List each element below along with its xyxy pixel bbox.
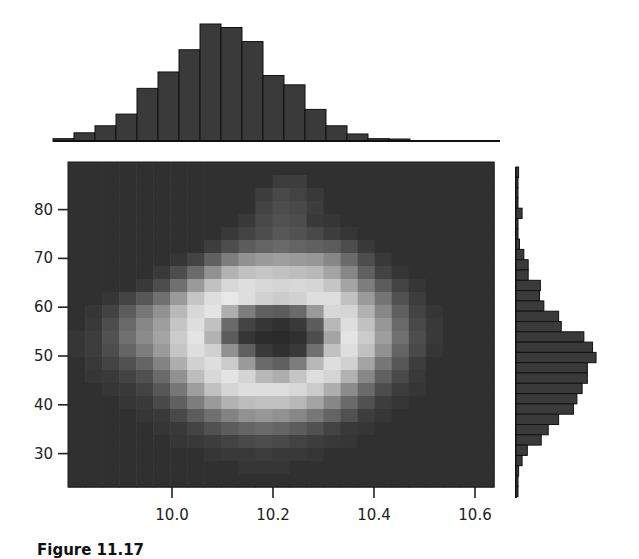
heatmap-cell bbox=[272, 370, 290, 384]
heatmap-cell bbox=[375, 201, 393, 215]
heatmap-cell bbox=[221, 266, 239, 280]
heatmap-cell bbox=[324, 448, 342, 462]
heatmap-cell bbox=[221, 383, 239, 397]
heatmap-cell bbox=[409, 318, 427, 332]
heatmap-cell bbox=[221, 188, 239, 202]
heatmap-cell bbox=[102, 227, 120, 241]
heatmap-cell bbox=[358, 318, 376, 332]
heatmap-cell bbox=[409, 396, 427, 410]
heatmap-cell bbox=[375, 253, 393, 267]
heatmap-cell bbox=[290, 383, 308, 397]
heatmap-cell bbox=[187, 305, 205, 319]
heatmap-cell bbox=[187, 318, 205, 332]
heatmap-cell bbox=[341, 357, 359, 371]
heatmap-cell bbox=[136, 331, 154, 345]
heatmap-cell bbox=[170, 422, 188, 436]
heatmap-cell bbox=[272, 435, 290, 449]
heatmap-cell bbox=[68, 175, 86, 189]
heatmap-cell bbox=[153, 188, 171, 202]
heatmap-cell bbox=[358, 292, 376, 306]
heatmap-cell bbox=[324, 201, 342, 215]
heatmap-cell bbox=[221, 227, 239, 241]
heatmap-cell bbox=[375, 461, 393, 475]
heatmap-cell bbox=[221, 214, 239, 228]
heatmap-cell bbox=[102, 383, 120, 397]
heatmap-cell bbox=[290, 253, 308, 267]
heatmap-cell bbox=[477, 396, 495, 410]
heatmap-cell bbox=[187, 162, 205, 176]
heatmap-cell bbox=[443, 227, 461, 241]
heatmap-cell bbox=[153, 318, 171, 332]
heatmap-cell bbox=[358, 227, 376, 241]
heatmap-cell bbox=[358, 214, 376, 228]
y-tick-label: 30 bbox=[34, 445, 53, 463]
heatmap-cell bbox=[392, 162, 410, 176]
heatmap-cell bbox=[102, 292, 120, 306]
heatmap-cell bbox=[477, 461, 495, 475]
heatmap-cell bbox=[409, 279, 427, 293]
heatmap-cell bbox=[272, 292, 290, 306]
heatmap-cell bbox=[136, 292, 154, 306]
heatmap-cell bbox=[187, 435, 205, 449]
heatmap-cell bbox=[68, 162, 86, 176]
heatmap-cell bbox=[119, 357, 137, 371]
heatmap-cell bbox=[341, 331, 359, 345]
heatmap-cell bbox=[238, 396, 256, 410]
heatmap-cell bbox=[443, 162, 461, 176]
heatmap-cell bbox=[409, 461, 427, 475]
heatmap-cell bbox=[307, 188, 325, 202]
heatmap-cell bbox=[221, 240, 239, 254]
heatmap-cell bbox=[204, 201, 222, 215]
heatmap-cell bbox=[153, 227, 171, 241]
heatmap-cell bbox=[290, 279, 308, 293]
heatmap-cell bbox=[341, 292, 359, 306]
heatmap-cell bbox=[136, 461, 154, 475]
heatmap-cell bbox=[341, 279, 359, 293]
heatmap-cell bbox=[358, 331, 376, 345]
right-histogram-bar bbox=[516, 383, 582, 393]
heatmap-cell bbox=[204, 318, 222, 332]
heatmap-cell bbox=[443, 240, 461, 254]
top-histogram-bar bbox=[284, 85, 305, 141]
heatmap-cell bbox=[187, 253, 205, 267]
heatmap-cell bbox=[153, 331, 171, 345]
heatmap-cell bbox=[204, 331, 222, 345]
heatmap-cell bbox=[85, 201, 103, 215]
heatmap-cell bbox=[358, 422, 376, 436]
heatmap-cell bbox=[375, 305, 393, 319]
heatmap-cell bbox=[272, 422, 290, 436]
heatmap-cell bbox=[392, 279, 410, 293]
heatmap-cell bbox=[136, 370, 154, 384]
heatmap-cell bbox=[187, 396, 205, 410]
heatmap-cell bbox=[85, 292, 103, 306]
heatmap-cell bbox=[375, 396, 393, 410]
top-histogram-bar bbox=[179, 50, 200, 141]
top-histogram-bar bbox=[158, 72, 179, 141]
figure-caption: Figure 11.17 bbox=[37, 541, 144, 559]
heatmap-cell bbox=[85, 435, 103, 449]
heatmap-cell bbox=[187, 331, 205, 345]
heatmap-cell bbox=[375, 344, 393, 358]
heatmap-cell bbox=[119, 474, 137, 488]
heatmap-cell bbox=[392, 396, 410, 410]
heatmap-cell bbox=[324, 370, 342, 384]
heatmap-cell bbox=[426, 435, 444, 449]
heatmap-cell bbox=[238, 331, 256, 345]
heatmap-cell bbox=[221, 175, 239, 189]
heatmap-cell bbox=[153, 474, 171, 488]
heatmap-cell bbox=[460, 461, 478, 475]
heatmap-cell bbox=[460, 201, 478, 215]
heatmap-cell bbox=[255, 188, 273, 202]
heatmap-cell bbox=[272, 318, 290, 332]
heatmap-cell bbox=[272, 461, 290, 475]
heatmap-cell bbox=[119, 227, 137, 241]
heatmap-cell bbox=[255, 344, 273, 358]
y-tick-label: 40 bbox=[34, 396, 53, 414]
heatmap-cell bbox=[221, 292, 239, 306]
heatmap-cell bbox=[477, 201, 495, 215]
heatmap-cell bbox=[477, 305, 495, 319]
heatmap-cell bbox=[136, 422, 154, 436]
heatmap-cell bbox=[290, 474, 308, 488]
heatmap-cell bbox=[375, 227, 393, 241]
heatmap-cell bbox=[68, 448, 86, 462]
